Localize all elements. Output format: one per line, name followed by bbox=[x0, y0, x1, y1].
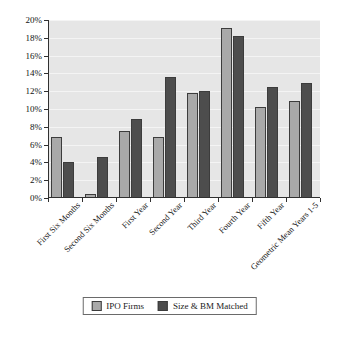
y-axis-tick bbox=[44, 73, 48, 74]
bar bbox=[63, 162, 74, 198]
bar-group bbox=[116, 20, 150, 198]
bar-group bbox=[218, 20, 252, 198]
y-axis-tick-label: 14% bbox=[26, 69, 43, 78]
legend-swatch-icon-ipo-firms bbox=[91, 301, 101, 311]
y-axis-tick-label: 12% bbox=[26, 87, 43, 96]
bar bbox=[289, 101, 300, 198]
bar-group bbox=[82, 20, 116, 198]
x-axis-category-labels: First Six MonthsSecond Six MonthsFirst Y… bbox=[48, 200, 320, 292]
bar bbox=[187, 93, 198, 198]
legend-label-size-bm-matched: Size & BM Matched bbox=[173, 301, 248, 311]
y-axis-tick bbox=[44, 162, 48, 163]
y-axis-tick bbox=[44, 91, 48, 92]
y-axis-tick bbox=[44, 38, 48, 39]
legend-item-ipo-firms: IPO Firms bbox=[91, 301, 144, 311]
bar bbox=[255, 107, 266, 198]
bar bbox=[267, 87, 278, 198]
y-axis-tick-label: 2% bbox=[30, 176, 42, 185]
y-axis-tick bbox=[44, 127, 48, 128]
bar-chart-figure: 0%2%4%6%8%10%12%14%16%18%20% First Six M… bbox=[0, 0, 339, 340]
y-axis-tick bbox=[44, 56, 48, 57]
y-axis-tick-label: 4% bbox=[30, 158, 42, 167]
y-axis-tick-label: 8% bbox=[30, 122, 42, 131]
bar bbox=[131, 119, 142, 198]
x-axis-category-label: Fifth Year bbox=[254, 200, 285, 231]
bar-group bbox=[286, 20, 320, 198]
y-axis-tick bbox=[44, 145, 48, 146]
y-axis-tick-label: 20% bbox=[26, 16, 43, 25]
bar bbox=[301, 83, 312, 198]
bar-group bbox=[184, 20, 218, 198]
bar-group bbox=[48, 20, 82, 198]
bar bbox=[97, 157, 108, 198]
y-axis-tick bbox=[44, 180, 48, 181]
x-axis-category-label: First Year bbox=[119, 200, 149, 230]
bar bbox=[199, 91, 210, 198]
legend-label-ipo-firms: IPO Firms bbox=[106, 301, 144, 311]
y-axis-tick bbox=[44, 20, 48, 21]
bar bbox=[233, 36, 244, 198]
y-axis-tick-label: 10% bbox=[26, 105, 43, 114]
bar bbox=[165, 77, 176, 198]
x-axis-category-label: Fourth Year bbox=[216, 200, 251, 235]
chart-legend: IPO Firms Size & BM Matched bbox=[82, 297, 257, 315]
y-axis-tick-label: 0% bbox=[30, 194, 42, 203]
bar bbox=[51, 137, 62, 198]
bar bbox=[153, 137, 164, 198]
bar-group bbox=[252, 20, 286, 198]
bar bbox=[119, 131, 130, 198]
legend-item-size-bm-matched: Size & BM Matched bbox=[158, 301, 248, 311]
x-axis-category-label: Geometric Mean Years 1-5 bbox=[248, 200, 320, 272]
bar-group bbox=[150, 20, 184, 198]
plot-area-wrapper: 0%2%4%6%8%10%12%14%16%18%20% bbox=[48, 20, 320, 198]
bar bbox=[221, 28, 232, 198]
x-axis-category-label: Second Year bbox=[146, 200, 183, 237]
legend-swatch-icon-size-bm-matched bbox=[158, 301, 168, 311]
y-axis-tick-label: 18% bbox=[26, 33, 43, 42]
x-axis-tick bbox=[320, 198, 321, 202]
x-axis-category-label: Third Year bbox=[185, 200, 218, 233]
y-axis-tick bbox=[44, 109, 48, 110]
y-axis-tick-label: 6% bbox=[30, 140, 42, 149]
y-axis-tick-label: 16% bbox=[26, 51, 43, 60]
y-axis-line bbox=[48, 20, 49, 198]
plot-area: 0%2%4%6%8%10%12%14%16%18%20% bbox=[48, 20, 320, 198]
